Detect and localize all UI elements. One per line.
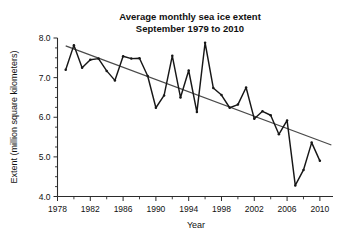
y-tick-label: 6.0 (39, 112, 51, 122)
x-tick-label: 2010 (310, 204, 329, 214)
x-tick-label: 1978 (48, 204, 67, 214)
y-tick-label: 5.0 (39, 152, 51, 162)
chart-title: Average monthly sea ice extent (119, 11, 262, 22)
data-point (97, 57, 100, 60)
data-point (122, 55, 125, 58)
sea-ice-extent-chart: Average monthly sea ice extent September… (0, 0, 341, 238)
data-point (237, 103, 240, 106)
data-point (261, 110, 264, 113)
x-axis-title: Year (187, 220, 205, 230)
x-tick-label: 1982 (81, 204, 100, 214)
sea-ice-series-line (66, 43, 320, 186)
data-point (204, 42, 207, 45)
data-point (253, 118, 256, 121)
data-point (179, 96, 182, 99)
x-tick-label: 1998 (212, 204, 231, 214)
data-point (105, 70, 108, 73)
y-axis-title: Extent (million square kilometers) (9, 50, 19, 183)
x-tick-label: 1994 (179, 204, 198, 214)
data-point (73, 44, 76, 47)
x-tick-label: 1990 (146, 204, 165, 214)
data-point (245, 86, 248, 89)
y-tick-label: 7.0 (39, 73, 51, 83)
data-point (64, 68, 67, 71)
data-point (294, 184, 297, 187)
y-axis-tick-labels: 4.05.06.07.08.0 (39, 33, 51, 202)
y-axis-ticks (54, 38, 58, 197)
data-point (319, 160, 322, 163)
data-point (171, 55, 174, 58)
data-point (114, 79, 117, 82)
data-point (220, 94, 223, 97)
data-point (302, 169, 305, 172)
data-point (310, 141, 313, 144)
data-point (155, 106, 158, 109)
data-point (212, 87, 215, 90)
data-point (278, 133, 281, 136)
data-point (89, 59, 92, 62)
data-point (130, 57, 133, 60)
chart-subtitle: September 1979 to 2010 (136, 23, 244, 34)
data-point (196, 111, 199, 114)
x-tick-label: 1986 (114, 204, 133, 214)
x-tick-label: 2006 (278, 204, 297, 214)
data-point (187, 69, 190, 72)
x-tick-label: 2002 (245, 204, 264, 214)
data-point (81, 66, 84, 69)
data-point (228, 106, 231, 109)
data-point (163, 94, 166, 97)
sea-ice-series-markers (64, 42, 321, 187)
data-point (269, 114, 272, 117)
chart-canvas: Average monthly sea ice extent September… (0, 0, 341, 238)
data-point (146, 75, 149, 78)
data-point (138, 57, 141, 60)
data-point (286, 119, 289, 122)
y-tick-label: 8.0 (39, 33, 51, 43)
x-axis-tick-labels: 197819821986199019941998200220062010 (48, 204, 330, 214)
y-tick-label: 4.0 (39, 192, 51, 202)
x-axis-ticks (58, 197, 320, 202)
